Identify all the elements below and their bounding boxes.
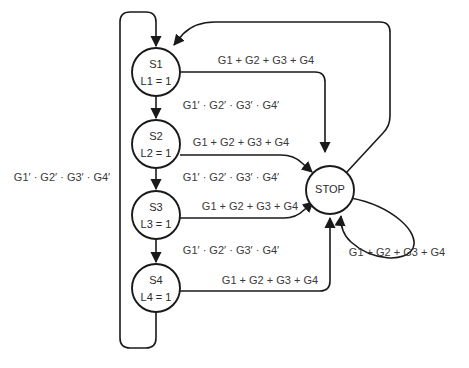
node-s2[interactable]: S2 L2 = 1 (132, 120, 180, 168)
node-s3-name: S3 (149, 201, 162, 213)
node-s2-circle[interactable] (132, 120, 180, 168)
edge-label-s1-stop: G1 + G2 + G3 + G4 (218, 54, 314, 66)
edge-label-s4-s1-feedback: G1′ · G2′ · G3′ · G4′ (14, 171, 110, 183)
node-stop[interactable]: STOP (306, 166, 354, 214)
diagram-canvas: S1 L1 = 1 S2 L2 = 1 S3 L3 = 1 S4 L4 = 1 … (0, 0, 469, 368)
node-s1-name: S1 (149, 58, 162, 70)
edge-label-s4-stop: G1 + G2 + G3 + G4 (222, 274, 318, 286)
edge-label-s3-s4: G1′ · G2′ · G3′ · G4′ (183, 244, 279, 256)
node-stop-name: STOP (315, 183, 345, 195)
edge-label-stop-self: G1 + G2 + G3 + G4 (349, 246, 445, 258)
node-s4-output: L4 = 1 (141, 291, 172, 303)
node-s2-name: S2 (149, 130, 162, 142)
edge-label-s2-stop: G1 + G2 + G3 + G4 (193, 136, 289, 148)
node-s4-circle[interactable] (132, 264, 180, 312)
edge-label-s3-stop: G1 + G2 + G3 + G4 (202, 200, 298, 212)
node-s2-output: L2 = 1 (141, 147, 172, 159)
node-s1[interactable]: S1 L1 = 1 (132, 48, 180, 96)
node-s1-circle[interactable] (132, 48, 180, 96)
node-s3-output: L3 = 1 (141, 218, 172, 230)
edge-stop-s1 (174, 22, 390, 173)
state-diagram: S1 L1 = 1 S2 L2 = 1 S3 L3 = 1 S4 L4 = 1 … (0, 0, 469, 368)
edge-label-s1-s2: G1′ · G2′ · G3′ · G4′ (183, 99, 279, 111)
node-s4[interactable]: S4 L4 = 1 (132, 264, 180, 312)
node-s4-name: S4 (149, 274, 162, 286)
node-s3-circle[interactable] (132, 191, 180, 239)
edge-label-s2-s3: G1′ · G2′ · G3′ · G4′ (183, 171, 279, 183)
edge-s2-stop (180, 155, 312, 172)
node-s1-output: L1 = 1 (141, 75, 172, 87)
node-s3[interactable]: S3 L3 = 1 (132, 191, 180, 239)
